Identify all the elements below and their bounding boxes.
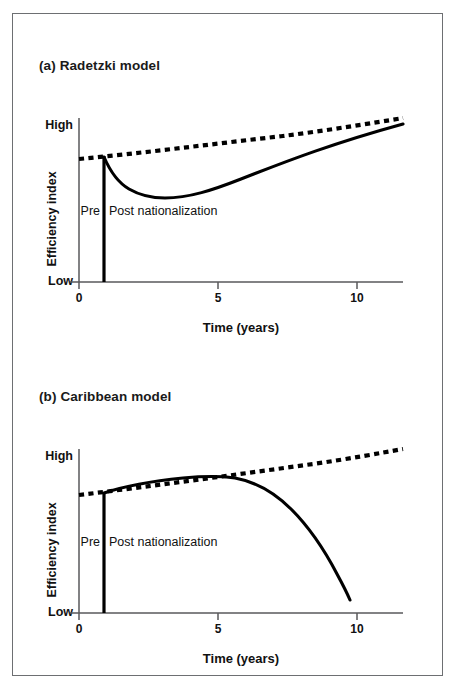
panel-a-xtick-label-5: 5	[215, 291, 222, 305]
panel-a-annotation-pre: Pre	[81, 204, 101, 218]
panel-a-xtick-label-10: 10	[350, 291, 364, 305]
panel-b-plot: Efficiency index High Low 0 5 10 Pre Pos…	[13, 345, 444, 676]
panel-b-x-axis-title: Time (years)	[203, 651, 279, 666]
panel-caribbean-model: (b) Caribbean model Efficiency index Hig…	[13, 345, 444, 676]
panel-a-y-low-label: Low	[48, 274, 73, 288]
panel-b-y-axis-title: Efficiency index	[45, 502, 59, 597]
panel-a-x-axis-title: Time (years)	[203, 320, 279, 335]
panel-a-plot: Efficiency index High Low 0 5 10 Pre Pos…	[13, 14, 444, 345]
panel-b-annotation-pre: Pre	[81, 535, 101, 549]
panel-a-y-axis-title: Efficiency index	[45, 171, 59, 266]
panel-radetzki-model: (a) Radetzki model Efficiency index High…	[13, 14, 444, 345]
panel-b-y-high-label: High	[45, 449, 73, 463]
panel-b-annotation-post: Post nationalization	[109, 535, 217, 549]
figure-frame: (a) Radetzki model Efficiency index High…	[12, 13, 443, 676]
panel-a-y-high-label: High	[45, 118, 73, 132]
panel-b-xtick-label-5: 5	[215, 622, 222, 636]
panel-a-xtick-label-0: 0	[76, 291, 83, 305]
panel-a-efficiency-curve	[104, 124, 403, 198]
panel-a-annotation-post: Post nationalization	[109, 204, 217, 218]
panel-b-xtick-label-10: 10	[350, 622, 364, 636]
panel-b-y-low-label: Low	[48, 605, 73, 619]
panel-b-xtick-label-0: 0	[76, 622, 83, 636]
